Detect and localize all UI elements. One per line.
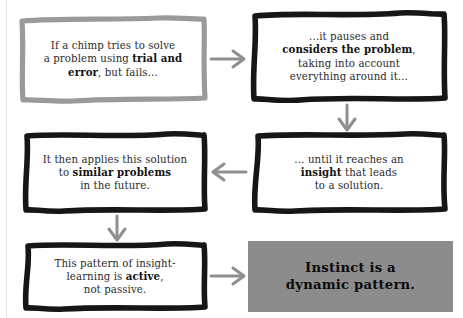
trial-and-error-box: If a chimp tries to solve a problem usin… [18,14,208,104]
considers-problem-box: …it pauses and considers the problem, ta… [250,10,448,103]
arrow-node1-to-node2 [211,51,244,67]
arrow-node4-to-node5 [109,216,125,240]
insight-box: … until it reaches an insight that leads… [250,131,448,214]
trial-and-error-text: If a chimp tries to solve a problem usin… [38,39,189,78]
active-learning-box: This pattern of insight- learning is act… [22,241,208,312]
active-learning-text: This pattern of insight- learning is act… [48,257,181,296]
similar-problems-text: It then applies this solution to similar… [37,153,193,192]
page-edge-rule [6,0,7,318]
arrow-node5-to-node6 [211,268,244,284]
flowchart-canvas: If a chimp tries to solve a problem usin… [0,0,463,318]
similar-problems-box: It then applies this solution to similar… [22,131,208,214]
considers-problem-text: …it pauses and considers the problem, ta… [276,30,421,82]
arrow-node2-to-node3 [339,105,355,130]
insight-text: … until it reaches an insight that leads… [288,153,409,192]
conclusion-text: Instinct is a dynamic pattern. [280,260,421,293]
conclusion-box: Instinct is a dynamic pattern. [248,241,453,312]
arrow-node3-to-node4 [213,164,246,180]
